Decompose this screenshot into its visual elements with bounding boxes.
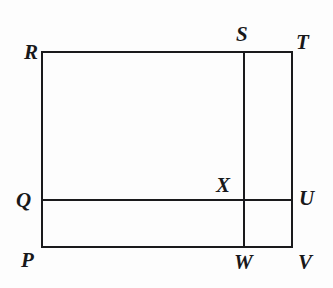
vertex-label-Q: Q [16,190,31,211]
vertex-label-P: P [21,250,34,271]
geometry-figure: R S T Q X U P W V [0,0,333,288]
vertex-label-X: X [216,175,230,196]
vertex-label-W: W [234,252,253,273]
vertex-label-U: U [299,188,314,209]
segments-group [42,52,292,247]
vertex-label-T: T [296,32,309,53]
vertex-label-S: S [236,24,248,45]
vertex-label-V: V [298,252,312,273]
vertex-label-R: R [24,42,38,63]
figure-canvas [0,0,333,288]
